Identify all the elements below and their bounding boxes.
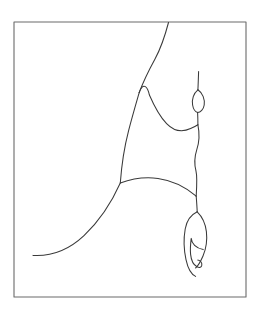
drawing-svg (0, 0, 261, 317)
artwork-canvas (0, 0, 261, 317)
paper-background (0, 0, 261, 317)
vertical-stem-upper (198, 72, 199, 90)
